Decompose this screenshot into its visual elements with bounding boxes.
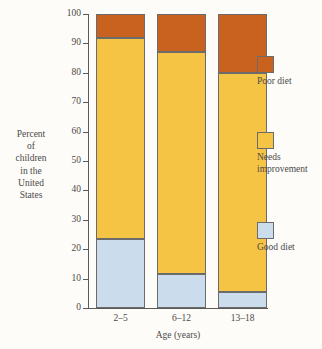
bar-segment-good-diet[interactable] — [96, 239, 145, 308]
y-axis-title-line-6: States — [2, 189, 60, 201]
y-axis-title-line-2: of — [2, 140, 60, 152]
legend-label: Good diet — [257, 242, 322, 254]
y-tick-mark — [83, 279, 88, 280]
y-tick-label: 40 — [72, 186, 82, 196]
x-tick-label-3: 13–18 — [213, 314, 273, 324]
y-tick-label: 70 — [72, 97, 82, 107]
y-axis-title: Percent of children in the United States — [2, 128, 60, 201]
y-tick-label: 90 — [72, 39, 82, 49]
y-tick-mark — [83, 190, 88, 191]
y-tick-mark — [83, 14, 88, 15]
y-tick-label: 80 — [72, 68, 82, 78]
y-tick-mark — [83, 43, 88, 44]
chart-figure: Percent of children in the United States… — [0, 0, 322, 349]
y-axis-title-line-1: Percent — [2, 128, 60, 140]
y-tick-label: 100 — [67, 9, 81, 19]
y-tick-label: 0 — [76, 303, 81, 313]
bar-segment-needs-improvement[interactable] — [218, 73, 267, 292]
bar-segment-good-diet[interactable] — [157, 274, 206, 308]
plot-area: 0102030405060708090100 2–56–1213–18 — [88, 14, 268, 309]
y-axis-title-line-5: United — [2, 177, 60, 189]
x-tick-label-2: 6–12 — [152, 314, 212, 324]
y-axis-title-line-3: children — [2, 152, 60, 164]
y-tick-mark — [83, 161, 88, 162]
y-tick-mark — [83, 102, 88, 103]
y-tick-mark — [83, 132, 88, 133]
legend-label: Poor diet — [257, 76, 322, 88]
bar-segment-poor-diet[interactable] — [157, 14, 206, 52]
y-tick-mark — [83, 308, 88, 309]
y-axis-line — [88, 14, 89, 309]
bar-segment-needs-improvement[interactable] — [157, 52, 206, 274]
y-tick-label: 20 — [72, 244, 82, 254]
bar-2-5[interactable] — [96, 14, 145, 308]
bar-segment-poor-diet[interactable] — [96, 14, 145, 38]
legend-item-poor-diet[interactable]: Poor diet — [257, 56, 322, 88]
bar-6-12[interactable] — [157, 14, 206, 308]
legend-swatch-poor-diet — [257, 56, 274, 73]
x-axis-title: Age (years) — [88, 331, 268, 341]
legend-swatch-good-diet — [257, 222, 274, 239]
y-tick-mark — [83, 220, 88, 221]
y-tick-label: 50 — [72, 156, 82, 166]
y-tick-label: 30 — [72, 215, 82, 225]
legend-label: Needs improvement — [257, 152, 322, 175]
x-axis-line — [88, 308, 268, 309]
y-tick-label: 60 — [72, 127, 82, 137]
y-tick-label: 10 — [72, 274, 82, 284]
y-tick-mark — [83, 73, 88, 74]
legend-item-needs-improvement[interactable]: Needs improvement — [257, 132, 322, 175]
x-tick-label-1: 2–5 — [91, 314, 151, 324]
y-tick-mark — [83, 249, 88, 250]
bar-segment-good-diet[interactable] — [218, 292, 267, 308]
legend-item-good-diet[interactable]: Good diet — [257, 222, 322, 254]
legend-swatch-needs-improvement — [257, 132, 274, 149]
bar-segment-needs-improvement[interactable] — [96, 38, 145, 239]
y-axis-title-line-4: in the — [2, 165, 60, 177]
